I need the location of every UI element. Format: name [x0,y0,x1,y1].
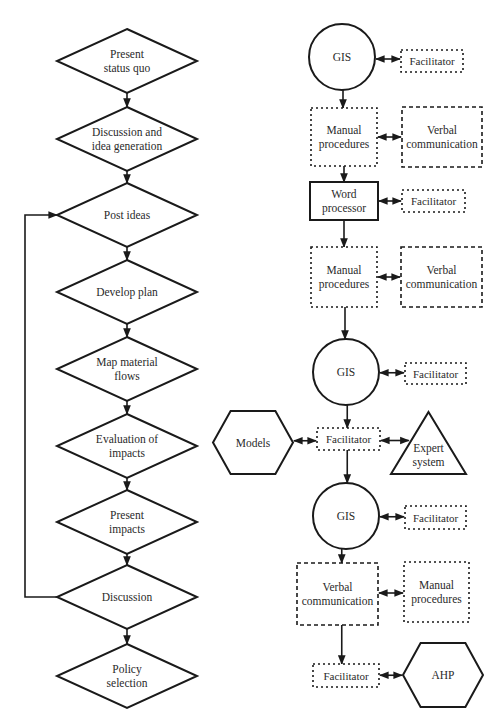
decision-diamond-discussion[interactable] [57,565,197,629]
dashed-box-verbal-communication-3[interactable] [297,563,378,625]
decision-diamond-develop-plan[interactable] [57,260,197,324]
decision-diamond-present-status-quo[interactable] [57,29,197,93]
dashed-box-verbal-communication-2[interactable] [401,247,482,307]
shapes-layer [57,24,483,708]
triangle-node-expert-system[interactable] [391,412,466,474]
process-box-word-processor[interactable] [310,182,378,220]
decision-diamond-present-impacts[interactable] [57,490,197,554]
decision-diamond-post-ideas[interactable] [57,183,197,247]
circle-node-gis-2[interactable] [313,339,379,405]
decision-diamond-map-material-flows[interactable] [57,337,197,401]
feedback-loop-arrow [25,215,57,597]
dashed-box-facilitator-5[interactable] [405,506,466,529]
dashed-box-facilitator-1[interactable] [401,50,463,72]
dashed-box-manual-procedures-3[interactable] [404,562,469,622]
hexagon-node-ahp[interactable] [403,643,483,707]
decision-diamond-evaluation-of-impacts[interactable] [57,414,197,478]
dashed-box-manual-procedures-1[interactable] [311,108,377,166]
dashed-box-facilitator-3[interactable] [405,363,466,384]
circle-node-gis-1[interactable] [309,24,375,90]
dashed-box-facilitator-6[interactable] [313,664,379,687]
hexagon-node-models[interactable] [213,411,293,474]
decision-diamond-discussion-idea-generation[interactable] [57,107,197,171]
dashed-box-facilitator-4[interactable] [317,428,380,450]
dashed-box-facilitator-2[interactable] [402,190,465,212]
decision-diamond-policy-selection[interactable] [57,644,197,708]
flowchart-canvas [0,0,504,728]
circle-node-gis-3[interactable] [313,483,379,549]
dashed-box-manual-procedures-2[interactable] [311,247,377,307]
dashed-box-verbal-communication-1[interactable] [402,107,482,167]
